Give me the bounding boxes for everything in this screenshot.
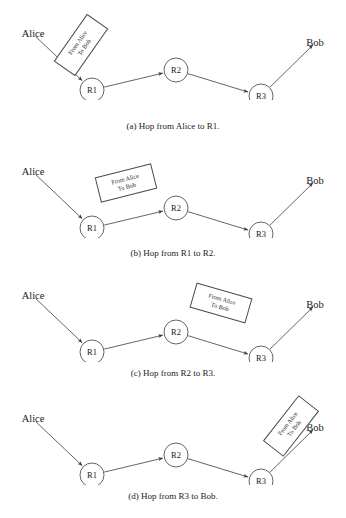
link-r2-to-r3	[188, 459, 248, 477]
link-alice-to-r1	[36, 422, 82, 466]
router-node-r3	[249, 84, 273, 100]
caption-panel-a: (a) Hop from Alice to R1.	[0, 121, 346, 131]
caption-panel-d: (d) Hop from R3 to Bob.	[0, 491, 346, 501]
panel-a: R1R2R3AliceBobFrom AliceTo Bob(a) Hop fr…	[0, 0, 346, 100]
caption-panel-b: (b) Hop from R1 to R2.	[0, 248, 346, 258]
panel-c: R1R2R3AliceBobFrom AliceTo Bob(c) Hop fr…	[0, 262, 346, 362]
router-node-r2	[164, 320, 188, 344]
link-r3-to-bob	[270, 307, 313, 349]
router-node-r1	[80, 216, 104, 238]
router-node-r3	[249, 346, 273, 362]
router-node-r2	[164, 196, 188, 220]
endpoint-label-alice: Alice	[22, 414, 45, 425]
link-r1-to-r2	[104, 73, 163, 87]
packet-forwarding-figure: R1R2R3AliceBobFrom AliceTo Bob(a) Hop fr…	[0, 0, 346, 518]
network-topology-panel-b: R1R2R3AliceBobFrom AliceTo Bob	[0, 138, 346, 238]
caption-panel-c: (c) Hop from R2 to R3.	[0, 368, 346, 378]
link-r2-to-r3	[188, 74, 248, 92]
link-r1-to-r2	[104, 335, 163, 349]
router-node-r1	[80, 78, 104, 100]
router-node-r1	[80, 463, 104, 485]
endpoint-label-alice: Alice	[22, 291, 45, 302]
panel-b: R1R2R3AliceBobFrom AliceTo Bob(b) Hop fr…	[0, 138, 346, 238]
endpoint-label-bob: Bob	[306, 176, 324, 187]
link-r1-to-r2	[104, 458, 163, 472]
router-node-r2	[164, 58, 188, 82]
panel-d: R1R2R3AliceBobFrom AliceTo Bob(d) Hop fr…	[0, 385, 346, 485]
endpoint-label-bob: Bob	[306, 423, 324, 434]
router-node-r1	[80, 340, 104, 362]
link-r1-to-r2	[104, 211, 163, 225]
endpoint-label-bob: Bob	[306, 38, 324, 49]
link-r3-to-bob	[270, 45, 313, 87]
network-topology-panel-c: R1R2R3AliceBobFrom AliceTo Bob	[0, 262, 346, 362]
link-r2-to-r3	[188, 212, 248, 230]
endpoint-label-bob: Bob	[306, 300, 324, 311]
network-topology-panel-d: R1R2R3AliceBobFrom AliceTo Bob	[0, 385, 346, 485]
link-r2-to-r3	[188, 336, 248, 354]
link-alice-to-r1	[36, 175, 82, 219]
network-topology-panel-a: R1R2R3AliceBobFrom AliceTo Bob	[0, 0, 346, 100]
endpoint-label-alice: Alice	[22, 167, 45, 178]
router-node-r3	[249, 469, 273, 485]
router-node-r3	[249, 222, 273, 238]
link-alice-to-r1	[36, 299, 82, 343]
router-node-r2	[164, 443, 188, 467]
link-r3-to-bob	[270, 183, 313, 225]
endpoint-label-alice: Alice	[22, 29, 45, 40]
